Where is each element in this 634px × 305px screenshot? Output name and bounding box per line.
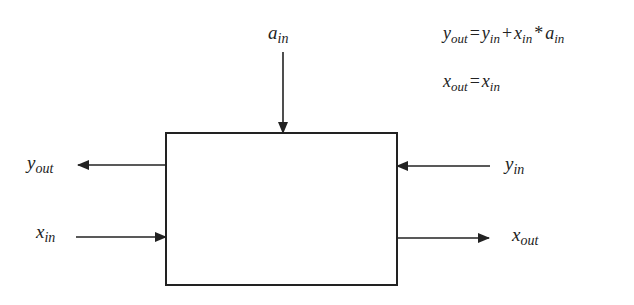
eq-var: x	[482, 71, 490, 91]
eq-operator: =	[468, 71, 482, 91]
eq-operator: +	[500, 23, 514, 43]
label-a-in: ain	[268, 23, 288, 46]
diagram-canvas	[0, 0, 634, 305]
label-x-in: xin	[36, 222, 55, 245]
eq-sub: in	[490, 79, 500, 94]
label-x-out: xout	[512, 225, 538, 248]
label-y-out: yout	[27, 153, 53, 176]
eq-var: x	[514, 23, 522, 43]
label-sub: in	[278, 31, 289, 46]
label-sub: out	[520, 233, 538, 248]
eq-var: a	[545, 23, 554, 43]
label-sub: out	[35, 161, 53, 176]
eq-var: y	[443, 23, 451, 43]
eq-operator: *	[532, 23, 545, 43]
label-sub: in	[513, 162, 524, 177]
eq-sub: out	[451, 79, 468, 94]
label-sub: in	[44, 230, 55, 245]
label-y-in: yin	[505, 154, 524, 177]
equation-x-out: xout=xin	[443, 72, 500, 93]
eq-sub: in	[490, 31, 500, 46]
eq-sub: out	[451, 31, 468, 46]
processing-block	[166, 133, 397, 285]
eq-sub: in	[522, 31, 532, 46]
eq-var: x	[443, 71, 451, 91]
eq-operator: =	[468, 23, 482, 43]
label-base: a	[268, 22, 278, 43]
eq-sub: in	[554, 31, 564, 46]
equation-y-out: yout=yin+xin*ain	[443, 24, 564, 45]
eq-var: y	[482, 23, 490, 43]
